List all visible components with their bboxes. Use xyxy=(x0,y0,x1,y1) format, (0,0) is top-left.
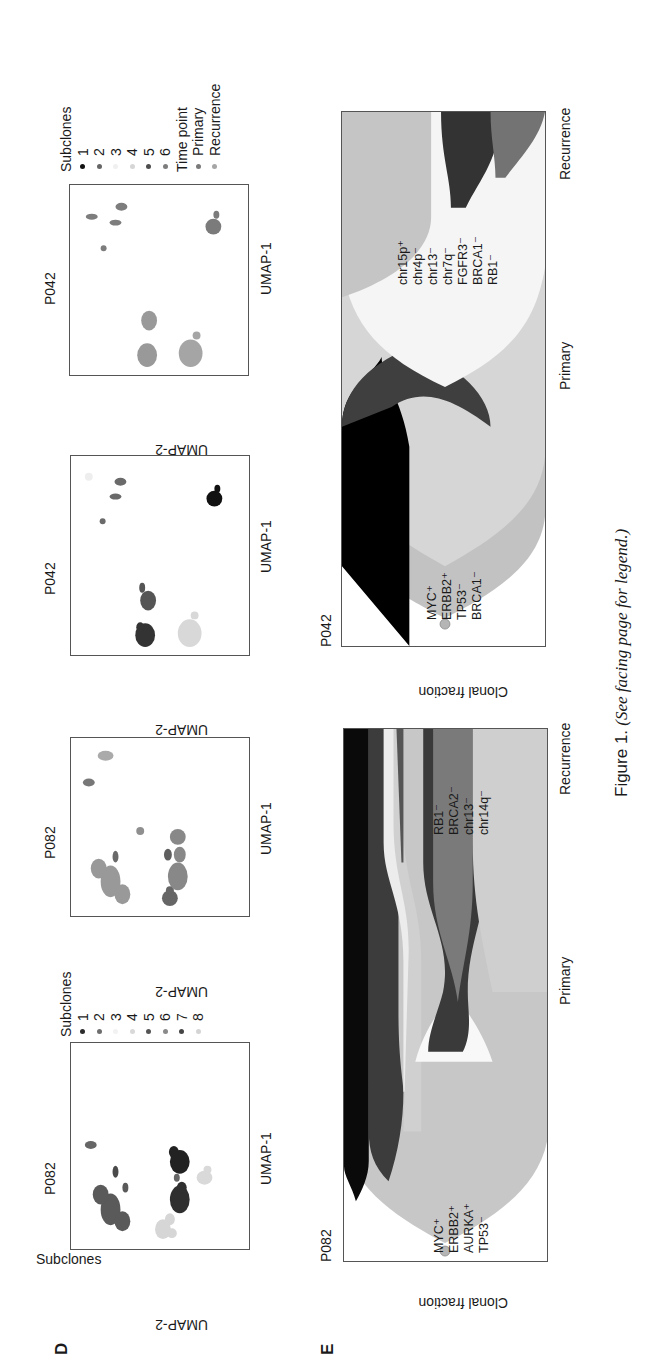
fish-p042-recurrence-label: Recurrence xyxy=(557,108,573,180)
mutation-label: TP53⁻ xyxy=(455,571,470,620)
legend-p042-item-1: 1 xyxy=(75,84,92,172)
mutation-label: chr13⁻ xyxy=(426,236,441,285)
umap-p082-subclones-xlabel: UMAP-1 xyxy=(258,1132,274,1185)
umap-p042-subclones-xlabel: UMAP-1 xyxy=(258,520,274,573)
scatter-points xyxy=(70,185,248,375)
figure-page: D P082 UMAP-2 UMAP-1 Subclones P xyxy=(0,0,657,1355)
umap-p082-timepoint-title: P082 xyxy=(42,826,58,859)
legend-p082-vtitle: Subclones xyxy=(58,972,75,1037)
mutation-label: chr7q⁻ xyxy=(441,236,456,285)
legend-p082-item-1: 1 xyxy=(75,972,92,1037)
legend-p082-title: Subclones xyxy=(36,1251,101,1268)
mutation-label: chr15p⁺ xyxy=(396,236,411,285)
legend-p042-item-2: 2 xyxy=(91,84,108,172)
legend-p082-item-5: 5 xyxy=(141,972,158,1037)
fishplot-area xyxy=(342,112,545,646)
legend-dot-icon xyxy=(163,164,168,169)
fish-p042-ylabel: Clonal fraction xyxy=(419,684,509,700)
legend-p042-item-4: 4 xyxy=(124,84,141,172)
legend-dot-icon xyxy=(130,1029,135,1034)
legend-dot-icon xyxy=(130,164,135,169)
mutation-label: MYC⁺ xyxy=(425,571,440,620)
legend-dot-icon xyxy=(146,164,151,169)
mutation-label: BRCA2⁻ xyxy=(447,786,462,835)
legend-p082-item-2: 2 xyxy=(91,972,108,1037)
fish-p042-primary-label: Primary xyxy=(557,342,573,390)
mutation-label: ERBB2⁺ xyxy=(447,1203,462,1253)
mutation-label: RB1⁻ xyxy=(486,236,501,285)
scatter-points xyxy=(71,1043,249,1249)
legend-p042: Subclones 1 2 3 4 5 6 Time point Primary… xyxy=(58,84,223,172)
legend-p082-item-4: 4 xyxy=(124,972,141,1037)
scatter-points xyxy=(71,456,249,655)
fish-p082-recurrence-label: Recurrence xyxy=(557,723,573,795)
legend-p042-item-3: 3 xyxy=(108,84,125,172)
legend-p082-subclone-list xyxy=(4,1042,66,1250)
umap-p082-timepoint-xlabel: UMAP-1 xyxy=(258,802,274,855)
legend-dot-icon xyxy=(179,1029,184,1034)
umap-p042-subclones-ylabel: UMAP-2 xyxy=(155,722,208,738)
legend-timepoint-title: Time point xyxy=(174,84,191,172)
legend-p082-item-6: 6 xyxy=(157,972,174,1037)
umap-p082-subclones-ylabel: UMAP-2 xyxy=(155,1317,208,1333)
legend-dot-icon xyxy=(212,164,217,169)
legend-dot-icon xyxy=(163,1029,168,1034)
umap-p042-subclones-title: P042 xyxy=(42,562,58,595)
mutation-label: RB1⁻ xyxy=(432,786,447,835)
legend-p042-item-5: 5 xyxy=(141,84,158,172)
umap-p082-subclones-plot xyxy=(70,1042,250,1250)
caption-figure-number: Figure 1. xyxy=(612,730,631,797)
legend-dot-icon xyxy=(113,164,118,169)
umap-p042-subclones-plot xyxy=(70,455,250,656)
legend-dot-icon xyxy=(80,164,85,169)
legend-p082-item-3: 3 xyxy=(108,972,125,1037)
mutation-label: chr4p⁻ xyxy=(411,236,426,285)
caption-note: (See facing page for legend.) xyxy=(612,529,631,726)
legend-dot-icon xyxy=(97,164,102,169)
legend-timepoint-recurrence: Recurrence xyxy=(207,84,224,172)
legend-p042-item-6: 6 xyxy=(157,84,174,172)
fish-p082-title: P082 xyxy=(318,1229,334,1262)
panel-e-letter: E xyxy=(318,1344,338,1355)
mutation-label: AURKA⁺ xyxy=(462,1203,477,1253)
legend-dot-icon xyxy=(196,1029,201,1034)
mutation-label: ERBB2⁺ xyxy=(440,571,455,620)
figure-caption: Figure 1. (See facing page for legend.) xyxy=(612,529,632,797)
umap-p042-timepoint-xlabel: UMAP-1 xyxy=(258,242,274,295)
mutation-label: TP53⁻ xyxy=(477,1203,492,1253)
fish-p042-plot xyxy=(341,111,546,647)
mutation-label: chr13⁻ xyxy=(462,786,477,835)
mutation-label: MYC⁺ xyxy=(432,1203,447,1253)
fish-p082-ylabel: Clonal fraction xyxy=(419,1295,509,1311)
legend-dot-icon xyxy=(80,1029,85,1034)
legend-timepoint-primary: Primary xyxy=(190,84,207,172)
fish-p042-title: P042 xyxy=(318,614,334,647)
legend-p082-item-8: 8 xyxy=(190,972,207,1037)
mutation-label: BRCA1⁻ xyxy=(470,571,485,620)
legend-dot-icon xyxy=(97,1029,102,1034)
umap-p082-timepoint-plot xyxy=(70,737,250,917)
legend-p082: Subclones xyxy=(36,1251,101,1268)
legend-p042-title: Subclones xyxy=(58,84,75,172)
scatter-points xyxy=(71,738,249,916)
legend-p082-vertical: Subclones 1 2 3 4 5 6 7 8 xyxy=(58,972,207,1037)
mutation-label: FGFR3⁻ xyxy=(456,236,471,285)
umap-p042-timepoint-plot xyxy=(69,184,249,376)
legend-dot-icon xyxy=(196,164,201,169)
legend-dot-icon xyxy=(146,1029,151,1034)
panel-d-letter: D xyxy=(52,1343,72,1355)
umap-p042-timepoint-ylabel: UMAP-2 xyxy=(155,442,208,458)
fish-p082-primary-label: Primary xyxy=(557,957,573,1005)
umap-p042-timepoint-title: P042 xyxy=(42,272,58,305)
mutation-label: chr14q⁻ xyxy=(477,786,492,835)
legend-dot-icon xyxy=(113,1029,118,1034)
legend-p082-item-7: 7 xyxy=(174,972,191,1037)
mutation-label: BRCA1⁻ xyxy=(471,236,486,285)
